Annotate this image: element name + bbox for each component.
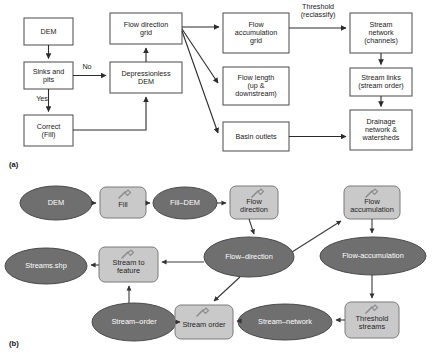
figure-canvas: DEM Sinks and pits Correct (Fill) Depres… <box>0 0 442 359</box>
node-basin-outlets <box>223 122 289 151</box>
panel-caption-a: (a) <box>9 160 18 169</box>
edge-label-no: No <box>76 63 98 71</box>
node-b-flow-direction-data <box>204 237 294 277</box>
node-dem <box>24 18 73 45</box>
node-sinks-and-pits <box>24 62 73 89</box>
node-b-streams-shp <box>5 248 87 284</box>
node-drainage-network <box>350 110 412 150</box>
edge-label-threshold: Threshold (reclassify) <box>290 3 346 19</box>
edge-label-yes: Yes <box>31 95 53 103</box>
node-b-fill-dem <box>153 187 217 219</box>
edge-b-flowdirdata-to-streamorder <box>214 277 240 301</box>
node-flow-accumulation-grid <box>223 13 289 53</box>
node-depressionless-dem <box>110 62 182 93</box>
diagram-svg <box>0 0 442 359</box>
panel-a-edges <box>49 27 382 137</box>
panel-caption-b: (b) <box>9 339 19 348</box>
node-b-stream-network-data <box>238 304 332 340</box>
node-flow-length <box>223 67 289 105</box>
node-stream-links <box>350 68 412 96</box>
edge-flowdir-to-basinoutlets <box>182 31 218 133</box>
node-b-stream-order-data <box>92 303 176 341</box>
edge-b-flowdir-to-flowdirdata <box>249 219 254 234</box>
node-flow-direction-grid <box>110 13 182 44</box>
node-correct-fill <box>24 115 73 146</box>
panel-b-nodes <box>5 186 426 341</box>
node-b-flow-accumulation-data <box>320 237 426 275</box>
node-b-fill <box>100 187 146 218</box>
node-stream-network <box>350 13 412 53</box>
node-b-dem <box>20 186 92 220</box>
edge-flowdir-to-flowlength <box>182 29 218 83</box>
node-b-flow-direction-tool <box>230 186 278 219</box>
edge-correct-to-depressionless <box>73 97 146 130</box>
